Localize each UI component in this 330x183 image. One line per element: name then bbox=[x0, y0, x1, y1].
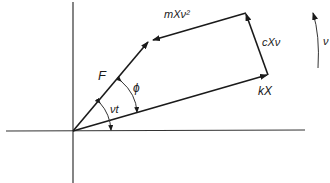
force-label: F bbox=[98, 68, 107, 83]
phase-angle-label: ϕ bbox=[133, 81, 140, 95]
spring-force-label: kX bbox=[258, 84, 273, 98]
inertia-force-label: mXν² bbox=[164, 8, 190, 20]
horizontal-axis bbox=[6, 130, 305, 131]
damping-force-label: cXν bbox=[262, 36, 281, 48]
rotation-angle-label: νt bbox=[110, 103, 120, 115]
rotation-direction-arrow bbox=[313, 13, 318, 68]
angular-velocity-label: ν bbox=[323, 35, 329, 47]
vector-diagram: F ϕ νt mXν² cXν kX ν bbox=[0, 0, 330, 183]
spring-force-vector bbox=[73, 75, 267, 131]
